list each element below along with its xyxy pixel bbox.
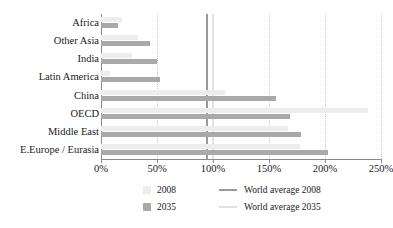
legend-swatch-2008: [143, 186, 151, 194]
bar-2035: [101, 150, 328, 155]
legend-label-2035: 2035: [157, 202, 219, 212]
chart-legend: 2008 World average 2008 2035 World avera…: [143, 182, 383, 216]
bar-2008: [101, 108, 368, 113]
bar-2035: [101, 132, 301, 137]
x-axis-label: 150%: [257, 163, 282, 174]
gridline-250pct: [381, 14, 382, 159]
bar-2008: [101, 71, 110, 76]
x-axis-label: 100%: [201, 163, 226, 174]
legend-label-2008: 2008: [157, 185, 219, 195]
y-axis-label: India: [3, 53, 99, 64]
bar-2008: [101, 35, 138, 40]
bar-group: [101, 141, 381, 159]
x-axis-label: 250%: [369, 163, 393, 174]
bar-group: [101, 32, 381, 50]
legend-row-2035: 2035 World average 2035: [143, 199, 383, 214]
y-axis-label: Other Asia: [3, 35, 99, 46]
bar-2035: [101, 114, 290, 119]
bar-2008: [101, 53, 132, 58]
bar-2008: [101, 90, 225, 95]
legend-label-world-average-2035: World average 2035: [244, 202, 321, 212]
y-axis-label: Africa: [3, 17, 99, 28]
x-axis-label: 50%: [147, 163, 166, 174]
y-axis-labels: AfricaOther AsiaIndiaLatin AmericaChinaO…: [0, 14, 99, 159]
y-axis-label: Latin America: [3, 71, 99, 82]
x-axis-label: 0%: [94, 163, 108, 174]
bar-group: [101, 68, 381, 86]
bar-group: [101, 50, 381, 68]
legend-row-2008: 2008 World average 2008: [143, 182, 383, 197]
y-axis-label: Middle East: [3, 126, 99, 137]
bar-group: [101, 123, 381, 141]
bar-2035: [101, 77, 160, 82]
legend-line-world-average-2008: [219, 189, 237, 191]
bar-2035: [101, 59, 157, 64]
bar-2008: [101, 144, 300, 149]
bar-group: [101, 87, 381, 105]
bar-group: [101, 14, 381, 32]
bar-2008: [101, 126, 288, 131]
bar-2035: [101, 41, 150, 46]
x-axis-label: 200%: [313, 163, 338, 174]
plot-area: [101, 14, 381, 159]
bar-2008: [101, 17, 122, 22]
bar-2035: [101, 23, 118, 28]
legend-label-world-average-2008: World average 2008: [244, 185, 321, 195]
x-axis-line: [101, 159, 381, 160]
bar-2035: [101, 96, 276, 101]
y-axis-label: E.Europe / Eurasia: [3, 144, 99, 155]
legend-swatch-2035: [143, 203, 151, 211]
y-axis-label: OECD: [3, 108, 99, 119]
legend-line-world-average-2035: [219, 206, 237, 208]
y-axis-label: China: [3, 90, 99, 101]
bar-group: [101, 105, 381, 123]
